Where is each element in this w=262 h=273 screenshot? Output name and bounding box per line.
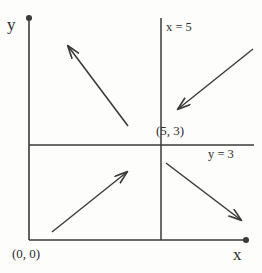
line-label-x5: x = 5 [166,21,192,34]
arrow-lower-left-quadrant [52,172,127,232]
coordinate-plane-figure: y x x = 5 y = 3 (5, 3) (0, 0) [0,0,262,273]
arrow-upper-right-quadrant [178,49,253,109]
origin-point-label: (0, 0) [12,247,40,260]
y-axis-label: y [7,16,16,33]
x-axis-label: x [233,246,242,263]
line-label-y3: y = 3 [208,148,234,161]
arrow-upper-left-quadrant [68,46,128,126]
intersection-point-label: (5, 3) [156,124,184,137]
arrow-lower-right-quadrant [166,163,241,220]
diagram-canvas [0,0,262,273]
